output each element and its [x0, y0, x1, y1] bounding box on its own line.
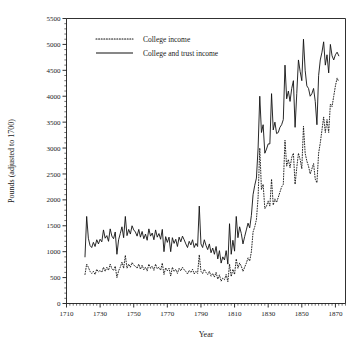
y-tick-label: 5500	[47, 15, 62, 23]
y-tick-label: 0	[57, 300, 61, 308]
x-tick-label: 1810	[228, 310, 243, 318]
x-tick-label: 1750	[127, 310, 142, 318]
x-axis-title: Year	[199, 330, 214, 339]
x-tick-label: 1770	[160, 310, 175, 318]
x-tick-label: 1710	[60, 310, 75, 318]
chart-figure: 0500100015002000250030003500400045005000…	[0, 0, 362, 352]
plot-frame	[67, 19, 346, 304]
y-tick-label: 500	[50, 274, 61, 282]
y-tick-label: 2000	[47, 196, 62, 204]
legend-label: College income	[143, 35, 191, 44]
x-axis: 171017301750177017901810183018501870	[60, 304, 346, 319]
y-tick-label: 4500	[47, 67, 62, 75]
plot-border	[67, 19, 346, 304]
legend-label: College and trust income	[143, 49, 219, 58]
y-tick-label: 3500	[47, 119, 62, 127]
y-tick-label: 2500	[47, 171, 62, 179]
x-tick-label: 1830	[261, 310, 276, 318]
x-tick-label: 1730	[93, 310, 108, 318]
y-tick-label: 4000	[47, 93, 62, 101]
data-series-group	[85, 39, 339, 282]
chart-legend: College incomeCollege and trust income	[96, 35, 219, 58]
x-tick-label: 1870	[328, 310, 343, 318]
chart-plot-area: 0500100015002000250030003500400045005000…	[0, 0, 362, 352]
y-axis-title: Pounds (adjusted to 1700)	[7, 119, 16, 203]
y-tick-label: 1500	[47, 222, 62, 230]
y-tick-label: 1000	[47, 248, 62, 256]
x-tick-label: 1790	[194, 310, 209, 318]
series-line-solid	[85, 39, 339, 264]
y-tick-label: 3000	[47, 145, 62, 153]
y-axis: 0500100015002000250030003500400045005000…	[47, 15, 67, 308]
y-tick-label: 5000	[47, 41, 62, 49]
x-tick-label: 1850	[295, 310, 310, 318]
